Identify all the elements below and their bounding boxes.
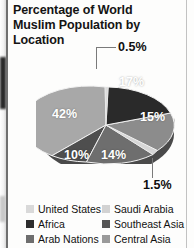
legend-item-africa: Africa bbox=[26, 218, 102, 230]
slice-label-42-percent: 42% bbox=[52, 107, 77, 121]
legend-item-southeast-asia: Southeast Asia bbox=[102, 218, 186, 230]
slice-label-15-percent: 15% bbox=[140, 110, 165, 124]
legend-swatch-icon bbox=[102, 220, 110, 228]
callout-label-1-5-percent: 1.5% bbox=[143, 178, 172, 192]
legend-item-arab-nations: Arab Nations bbox=[26, 233, 102, 245]
slice-label-17-percent: 17% bbox=[119, 75, 144, 89]
legend-swatch-icon bbox=[102, 205, 110, 213]
legend-label: United States bbox=[38, 203, 101, 215]
chart-figure: Percentage of World Muslim Population by… bbox=[0, 0, 194, 248]
callout-leader-bottom-vertical bbox=[152, 158, 153, 178]
callout-label-0-5-percent: 0.5% bbox=[118, 40, 147, 54]
slice-label-14-percent: 14% bbox=[101, 148, 126, 162]
legend-swatch-icon bbox=[26, 220, 34, 228]
legend-label: Saudi Arabia bbox=[114, 203, 174, 215]
slice-label-10-percent: 10% bbox=[64, 148, 89, 162]
legend-label: Africa bbox=[38, 218, 65, 230]
legend-label: Arab Nations bbox=[38, 233, 99, 245]
callout-leader-top-vertical bbox=[96, 47, 97, 69]
legend-swatch-icon bbox=[102, 235, 110, 243]
legend-label: Central Asia bbox=[114, 233, 171, 245]
legend-item-saudi-arabia: Saudi Arabia bbox=[102, 203, 186, 215]
legend-item-united-states: United States bbox=[26, 203, 102, 215]
chart-legend: United States Saudi Arabia Africa Southe… bbox=[26, 201, 186, 246]
legend-swatch-icon bbox=[26, 235, 34, 243]
callout-leader-top-horizontal bbox=[96, 47, 116, 48]
legend-swatch-icon bbox=[26, 205, 34, 213]
legend-item-central-asia: Central Asia bbox=[102, 233, 186, 245]
legend-label: Southeast Asia bbox=[114, 218, 184, 230]
